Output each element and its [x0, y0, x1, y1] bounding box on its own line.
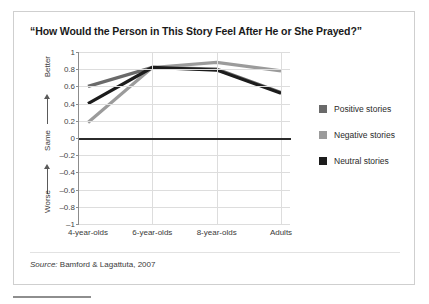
- y-axis-tick-mark: [76, 172, 79, 173]
- y-axis-tick-mark: [76, 121, 79, 122]
- source-citation: Bamford & Lagattuta, 2007: [60, 260, 156, 269]
- source-note: Source: Bamford & Lagattuta, 2007: [30, 260, 155, 269]
- source-divider: [30, 252, 400, 253]
- gridline-horizontal: [79, 172, 290, 173]
- y-axis-tick-label: 0: [49, 134, 75, 143]
- legend-item[interactable]: Positive stories: [319, 104, 414, 114]
- y-axis-tick-label: 0.8: [49, 65, 75, 74]
- x-axis-tick-label: Adults: [257, 228, 305, 238]
- series-line-negative-stories: [88, 62, 281, 122]
- y-axis-tick-mark: [76, 190, 79, 191]
- y-axis-tick-mark: [76, 207, 79, 208]
- y-axis-tick-label: 0.2: [49, 116, 75, 125]
- y-axis-tick-mark: [76, 104, 79, 105]
- bottom-rule: [13, 296, 91, 298]
- gridline-horizontal: [79, 224, 290, 225]
- source-prefix: Source:: [30, 260, 58, 269]
- legend-label: Neutral stories: [334, 156, 389, 166]
- x-axis-tick-label: 8-year-olds: [193, 228, 241, 238]
- y-axis-tick-label: –0.8: [49, 202, 75, 211]
- y-axis-tick-mark: [76, 155, 79, 156]
- y-axis-tick-label: –0.6: [49, 185, 75, 194]
- y-axis-tick-label: –0.4: [49, 168, 75, 177]
- gridline-horizontal: [79, 207, 290, 208]
- y-axis-tick-label: 0.6: [49, 82, 75, 91]
- y-axis-tick-mark: [76, 224, 79, 225]
- gridline-horizontal: [79, 155, 290, 156]
- up-arrow-stem-icon: [47, 98, 48, 124]
- x-axis-tick-label: 6-year-olds: [128, 228, 176, 238]
- gridline-horizontal: [79, 52, 290, 53]
- legend-swatch-icon: [319, 157, 327, 165]
- legend-swatch-icon: [319, 105, 327, 113]
- gridline-horizontal: [79, 121, 290, 122]
- gridline-horizontal: [79, 190, 290, 191]
- legend-item[interactable]: Negative stories: [319, 130, 414, 140]
- zero-baseline: [79, 138, 291, 140]
- legend-label: Positive stories: [334, 104, 391, 114]
- gridline-horizontal: [79, 86, 290, 87]
- y-axis-tick-label: 0.4: [49, 99, 75, 108]
- y-axis-tick-mark: [76, 52, 79, 53]
- y-axis-tick-mark: [76, 69, 79, 70]
- legend-item[interactable]: Neutral stories: [319, 156, 414, 166]
- y-axis-tick-mark: [76, 86, 79, 87]
- x-axis-tick-label: 4-year-olds: [64, 228, 112, 238]
- legend-swatch-icon: [319, 131, 327, 139]
- chart-legend: Positive storiesNegative storiesNeutral …: [319, 104, 414, 182]
- legend-label: Negative stories: [334, 130, 395, 140]
- chart-frame: “How Would the Person in This Story Feel…: [13, 11, 415, 285]
- y-axis-tick-label: 1: [49, 48, 75, 57]
- gridline-horizontal: [79, 104, 290, 105]
- gridline-horizontal: [79, 69, 290, 70]
- y-axis-tick-label: –0.2: [49, 151, 75, 160]
- plot-area: 10.80.60.40.20–0.2–0.4–0.6–0.8–14-year-o…: [78, 52, 290, 225]
